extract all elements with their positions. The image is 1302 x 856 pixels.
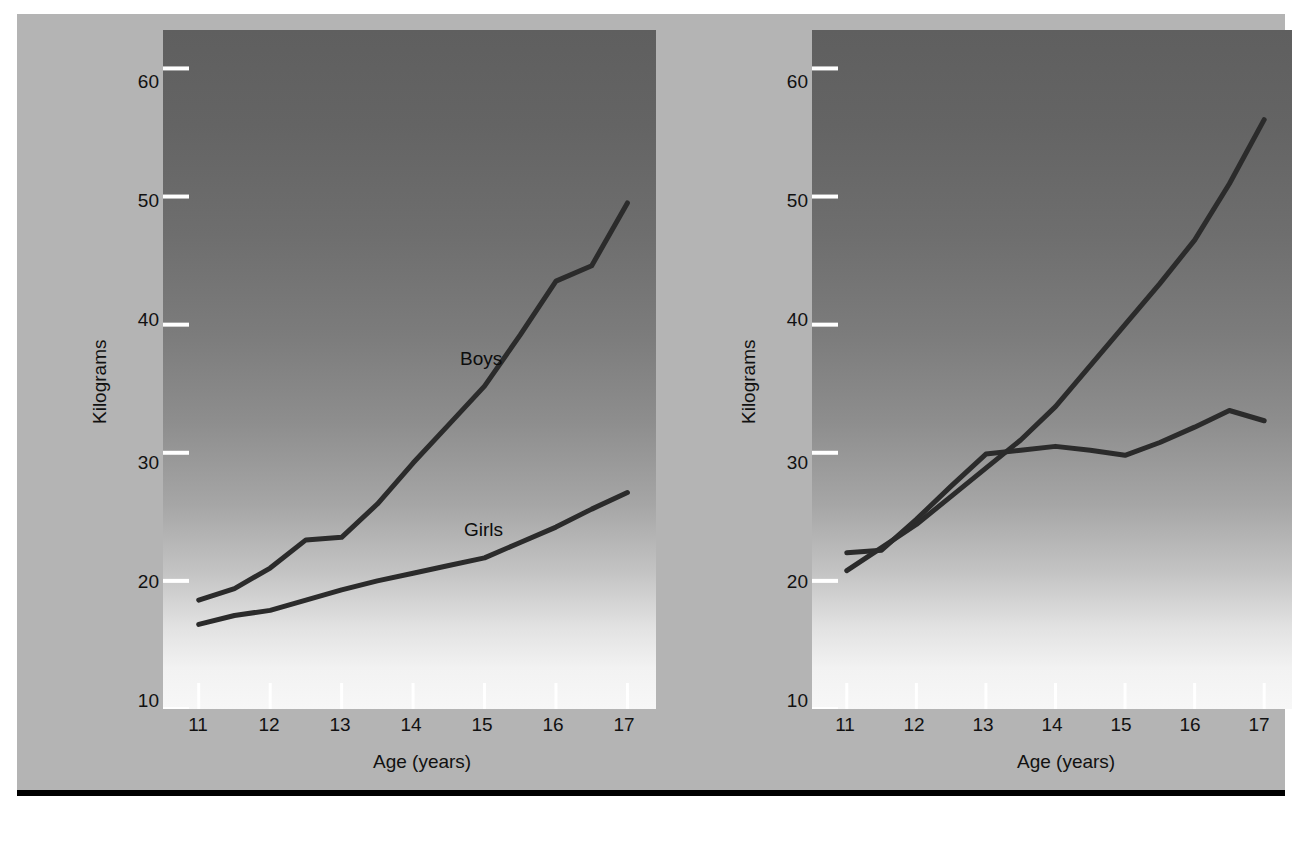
y-tick-right-20: 20 [764,571,808,593]
x-tick-left-15: 15 [462,714,502,736]
y-axis-title-right: Kilograms [738,340,760,424]
y-tick-left-20: 20 [115,571,159,593]
y-tick-right-60: 60 [764,71,808,93]
y-tick-left-30: 30 [115,452,159,474]
x-tick-right-16: 16 [1170,714,1210,736]
y-tick-left-60: 60 [115,71,159,93]
figure-panel: Strength of arm pull Kilograms 60 50 40 … [17,14,1285,790]
y-tick-left-50: 50 [115,190,159,212]
x-tick-left-16: 16 [533,714,573,736]
page-root: Strength of arm pull Kilograms 60 50 40 … [0,0,1302,856]
plot-area-right [812,30,1292,709]
y-tick-left-40: 40 [115,309,159,331]
x-tick-right-17: 17 [1239,714,1279,736]
x-tick-left-17: 17 [604,714,644,736]
x-tick-right-13: 13 [963,714,1003,736]
bottom-rule [17,790,1285,796]
x-tick-left-11: 11 [178,714,218,736]
plot-lines-left [163,30,656,709]
x-tick-right-11: 11 [825,714,865,736]
y-tick-right-30: 30 [764,452,808,474]
x-tick-right-15: 15 [1101,714,1141,736]
x-tick-left-14: 14 [391,714,431,736]
chart-arm-pull: Strength of arm pull Kilograms 60 50 40 … [17,14,677,790]
chart-arm-thrust: Strength of arm thrust Kilograms 60 50 4… [649,14,1285,790]
x-tick-right-14: 14 [1032,714,1072,736]
y-tick-right-10: 10 [764,690,808,712]
y-axis-title-left: Kilograms [89,340,111,424]
x-axis-title-left: Age (years) [373,751,471,773]
x-axis-title-right: Age (years) [1017,751,1115,773]
y-tick-left-10: 10 [115,690,159,712]
x-tick-left-12: 12 [249,714,289,736]
plot-lines-right [812,30,1292,709]
y-tick-right-40: 40 [764,309,808,331]
series-label-left-girls: Girls [464,519,503,541]
x-tick-right-12: 12 [894,714,934,736]
plot-area-left [163,30,656,709]
x-tick-left-13: 13 [320,714,360,736]
series-label-left-boys: Boys [460,348,502,370]
y-tick-right-50: 50 [764,190,808,212]
